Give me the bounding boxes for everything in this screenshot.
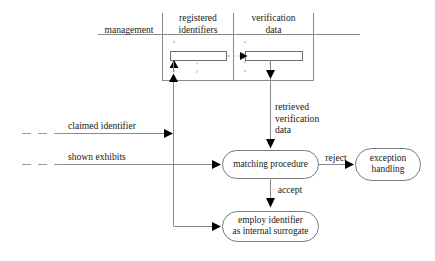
verification-data-record <box>246 52 303 61</box>
swimlane-header-verification-data: verification data <box>235 12 312 35</box>
node-label-matching-procedure: matching procedure <box>222 159 319 170</box>
diagram-vector-layer <box>0 0 435 261</box>
node-label-exception-handling: exception handling <box>355 153 421 176</box>
registered-identifier-record <box>171 52 227 61</box>
edge-label-accept: accept <box>272 184 308 196</box>
claimed-identifier-trunk <box>169 60 179 226</box>
input-label-shown-exhibits: shown exhibits <box>68 151 178 163</box>
record-link-edge <box>227 52 248 60</box>
edge-label-retrieved-verification-data: retrieved verification data <box>275 101 341 136</box>
edge-label-reject: reject <box>319 152 353 164</box>
input-label-claimed-identifier: claimed identifier <box>68 120 178 132</box>
retrieved-verification-data-edge <box>266 61 275 149</box>
diagram-canvas: management registered identifiers verifi… <box>0 0 435 261</box>
swimlane-header-registered-identifiers: registered identifiers <box>164 12 232 35</box>
trunk-to-employ-identifier-edge <box>174 222 222 231</box>
swimlane-header-management: management <box>98 24 160 36</box>
node-label-employ-identifier: employ identifier as internal surrogate <box>222 215 319 238</box>
